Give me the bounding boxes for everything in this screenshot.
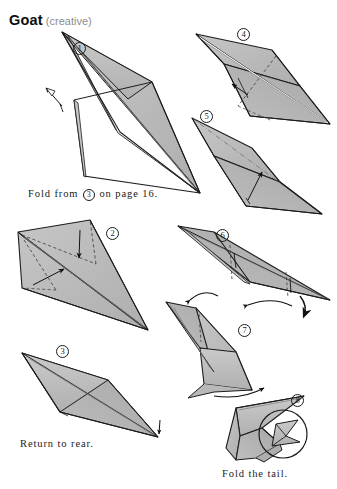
origami-artwork — [0, 0, 337, 489]
caption-fold-the-tail: Fold the tail. — [222, 468, 288, 479]
step-number-3: 3 — [56, 345, 69, 358]
model-name: Goat — [9, 12, 43, 28]
step-2-illustration — [18, 220, 148, 330]
step-1-illustration — [46, 32, 200, 193]
step-number-4: 4 — [237, 28, 250, 41]
step-number-7: 7 — [238, 324, 251, 337]
step-5-illustration — [192, 118, 322, 214]
caption-fold-from-suffix: on page 16. — [99, 188, 158, 199]
step-number-8: 8 — [291, 394, 304, 407]
step-number-1: 1 — [73, 42, 86, 55]
origami-instruction-page: Goat(creative) — [0, 0, 337, 489]
step-6-illustration — [178, 226, 330, 316]
step-7-illustration — [166, 293, 264, 398]
caption-fold-from-circled-number: 3 — [83, 189, 95, 201]
caption-fold-from-prefix: Fold from — [28, 188, 78, 199]
step-number-6: 6 — [216, 229, 229, 242]
step-number-2: 2 — [106, 227, 119, 240]
step-4-illustration — [196, 34, 330, 124]
step-3-illustration — [22, 353, 160, 437]
model-qualifier: (creative) — [46, 15, 92, 27]
page-title: Goat(creative) — [9, 11, 92, 29]
step-number-5: 5 — [200, 110, 213, 123]
caption-fold-from: Fold from 3 on page 16. — [28, 188, 158, 201]
caption-return-to-rear: Return to rear. — [20, 438, 94, 449]
